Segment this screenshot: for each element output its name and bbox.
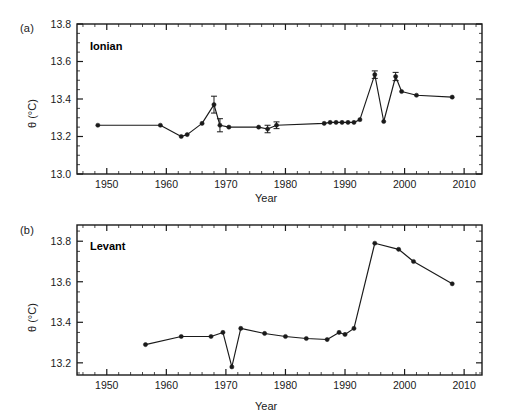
data-point <box>239 326 243 330</box>
x-tick-label: 1960 <box>155 178 179 190</box>
panel-a-xlabel: Year <box>255 192 277 204</box>
y-tick-label: 13.6 <box>51 276 72 288</box>
data-point <box>209 334 213 338</box>
y-tick-label: 13.8 <box>51 235 72 247</box>
y-tick-label: 13.2 <box>51 357 72 369</box>
data-point <box>328 120 332 124</box>
data-point <box>352 326 356 330</box>
panel-a-ylabel: θ (°C) <box>26 99 38 128</box>
data-point <box>394 74 398 78</box>
x-tick-label: 1950 <box>95 178 119 190</box>
x-tick-label: 2000 <box>393 379 417 391</box>
data-point <box>340 120 344 124</box>
panel-b-plot: 195019601970198019902000201013.213.413.6… <box>0 208 506 417</box>
x-tick-label: 1990 <box>333 379 357 391</box>
panel-b-tag: (b) <box>20 224 34 236</box>
y-tick-label: 13.0 <box>51 168 72 180</box>
series-line <box>98 75 452 137</box>
panel-b-ylabel: θ (°C) <box>26 303 38 332</box>
panel-a-title: Ionian <box>90 40 122 52</box>
data-point <box>283 334 287 338</box>
data-point <box>158 123 162 127</box>
data-point <box>185 133 189 137</box>
data-point <box>304 336 308 340</box>
x-tick-label: 2000 <box>393 178 417 190</box>
data-point <box>411 259 415 263</box>
figure-root: (a) Ionian θ (°C) Year 19501960197019801… <box>0 0 506 417</box>
data-point <box>227 125 231 129</box>
y-tick-label: 13.2 <box>51 130 72 142</box>
data-point <box>397 247 401 251</box>
data-point <box>414 93 418 97</box>
data-point <box>337 330 341 334</box>
data-point <box>179 134 183 138</box>
x-tick-label: 1980 <box>274 379 298 391</box>
x-tick-label: 2010 <box>452 379 476 391</box>
data-point <box>343 332 347 336</box>
x-tick-label: 1970 <box>214 178 238 190</box>
x-tick-label: 1950 <box>95 379 119 391</box>
panel-ionian: (a) Ionian θ (°C) Year 19501960197019801… <box>0 0 506 208</box>
data-point <box>265 127 269 131</box>
data-point <box>322 121 326 125</box>
data-point <box>221 330 225 334</box>
data-point <box>179 334 183 338</box>
x-tick-label: 1960 <box>155 379 179 391</box>
data-point <box>212 103 216 107</box>
data-point <box>450 282 454 286</box>
x-tick-label: 2010 <box>452 178 476 190</box>
panel-b-xlabel: Year <box>255 400 277 412</box>
data-point <box>230 365 234 369</box>
data-point <box>334 120 338 124</box>
data-point <box>352 120 356 124</box>
data-point <box>218 123 222 127</box>
series-line <box>145 243 452 367</box>
data-point <box>373 73 377 77</box>
y-tick-label: 13.4 <box>51 316 72 328</box>
data-point <box>400 89 404 93</box>
data-point <box>274 123 278 127</box>
panel-a-tag: (a) <box>20 22 34 34</box>
data-point <box>263 331 267 335</box>
data-point <box>358 118 362 122</box>
x-tick-label: 1990 <box>333 178 357 190</box>
data-point <box>143 342 147 346</box>
data-point <box>200 121 204 125</box>
data-point <box>325 337 329 341</box>
data-point <box>382 119 386 123</box>
data-point <box>96 123 100 127</box>
data-point <box>373 241 377 245</box>
x-tick-label: 1980 <box>274 178 298 190</box>
data-point <box>257 125 261 129</box>
y-tick-label: 13.8 <box>51 18 72 30</box>
y-tick-label: 13.6 <box>51 55 72 67</box>
data-point <box>450 95 454 99</box>
panel-levant: (b) Levant θ (°C) Year 19501960197019801… <box>0 208 506 417</box>
panel-b-title: Levant <box>90 240 125 252</box>
y-tick-label: 13.4 <box>51 93 72 105</box>
x-tick-label: 1970 <box>214 379 238 391</box>
panel-a-plot: 195019601970198019902000201013.013.213.4… <box>0 0 506 208</box>
data-point <box>346 120 350 124</box>
